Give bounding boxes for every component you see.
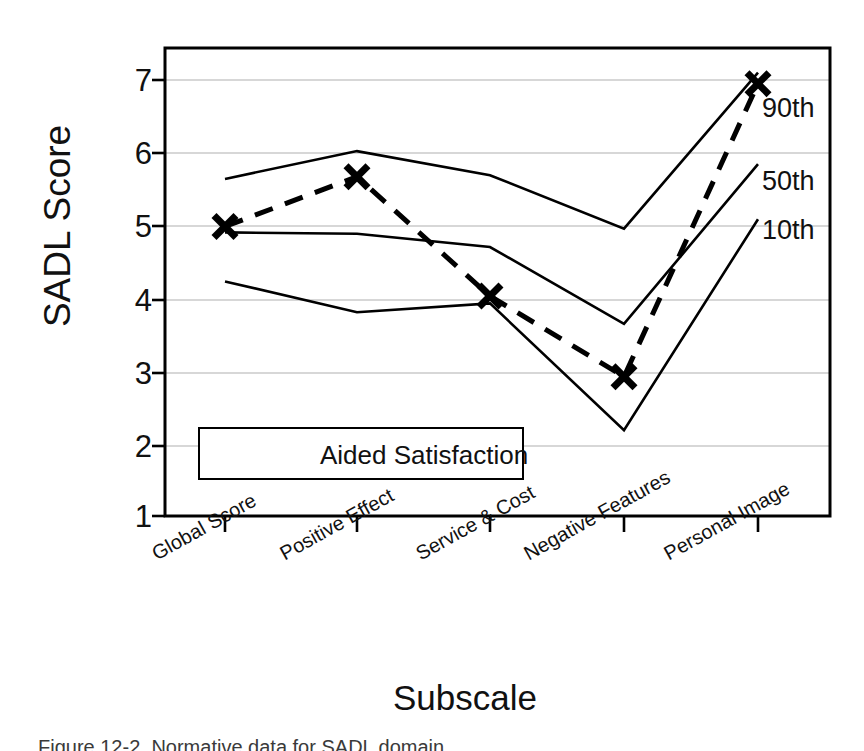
figure-container: SADL Score 7 6 5 4 3 2 1	[0, 0, 864, 751]
y-axis-ticks	[152, 80, 165, 516]
legend-item-label-aided-satisfaction: Aided Satisfaction	[320, 440, 528, 471]
series-line-aided-satisfaction	[225, 84, 758, 377]
series-line-90th	[225, 73, 758, 229]
annotation-90th: 90th	[762, 93, 815, 124]
x-axis-title: Subscale	[300, 678, 630, 718]
annotation-10th: 10th	[762, 215, 815, 246]
plot-area	[0, 0, 864, 751]
annotation-50th: 50th	[762, 166, 815, 197]
series-markers-aided-satisfaction	[214, 73, 769, 388]
series-line-10th	[225, 219, 758, 430]
figure-caption: Figure 12-2. Normative data for SADL dom…	[38, 736, 838, 751]
legend: Aided Satisfaction	[198, 427, 524, 480]
